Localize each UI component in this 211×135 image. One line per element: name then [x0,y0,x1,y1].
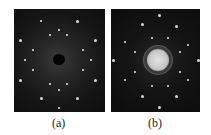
spot [167,85,169,87]
spot [76,97,79,100]
diffraction-image-a [14,9,105,112]
spot [158,106,161,109]
spot [49,34,51,36]
spot [187,44,189,46]
spot [40,97,43,100]
spot [58,89,60,91]
spot [66,83,68,85]
spot [134,71,136,73]
spot [187,79,189,81]
spot [58,29,60,31]
spot [24,59,26,61]
spot [76,20,79,23]
spot [90,59,92,61]
spot [151,37,153,39]
spot [94,39,97,42]
spot [179,51,181,53]
spot [40,20,42,22]
panel-label-b: (b) [148,116,162,131]
spot [124,41,126,43]
spot [82,69,84,71]
spot [32,49,34,51]
spot [197,59,200,62]
spot [158,14,161,17]
central-bright-disc [147,49,169,71]
panel-label-a: (a) [52,116,65,131]
spot [19,79,22,82]
spot [134,51,136,53]
diffraction-image-b [111,9,200,112]
spot [49,83,51,85]
spot [175,25,178,28]
spot [141,23,144,26]
spot [179,71,181,73]
spot [167,37,169,39]
spot [58,107,60,109]
spot [151,85,153,87]
spot [141,95,144,98]
central-beam-stop [53,54,65,65]
spot [175,95,178,98]
spot [112,59,115,62]
spot [82,49,84,51]
spot [124,79,126,81]
spot [19,39,22,42]
spot [94,79,97,82]
spot [66,34,68,36]
spot [32,69,34,71]
